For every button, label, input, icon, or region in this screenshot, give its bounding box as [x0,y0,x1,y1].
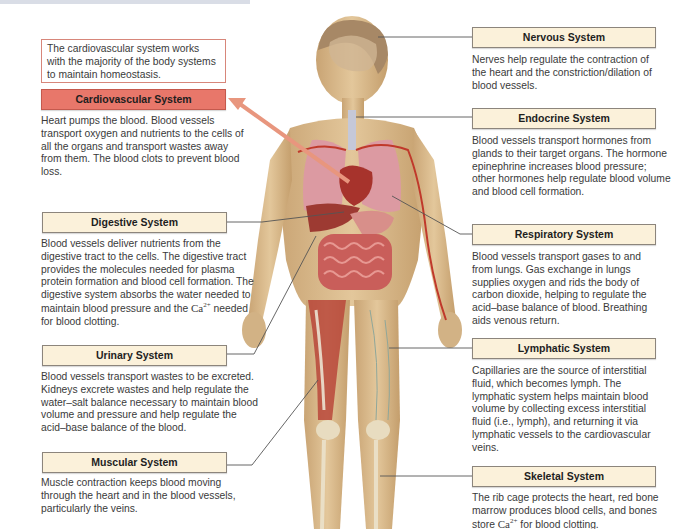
ca-text: Ca [191,302,203,314]
nervous-system-desc: Nerves help regulate the contraction of … [472,54,662,92]
skeletal-desc-tail: for blood clotting. [517,519,598,529]
intro-note: The cardiovascular system works with the… [41,39,226,83]
endocrine-system-label: Endocrine System [472,108,656,129]
ca-text: Ca [498,518,510,529]
respiratory-system-desc: Blood vessels transport gases to and fro… [472,251,662,328]
cardiovascular-system-desc: Heart pumps the blood. Blood vessels tra… [41,115,246,179]
lymphatic-system-label: Lymphatic System [472,338,656,359]
urinary-system-label: Urinary System [42,345,227,366]
nervous-system-label: Nervous System [472,27,656,48]
muscular-system-label: Muscular System [42,452,227,473]
skeletal-system-desc: The rib cage protects the heart, red bon… [472,492,677,529]
calcium-symbol: Ca2+ [191,302,211,314]
skeletal-system-label: Skeletal System [472,466,656,487]
muscular-system-desc: Muscle contraction keeps blood moving th… [41,477,256,515]
cardiovascular-system-label: Cardiovascular System [41,89,226,110]
digestive-system-desc: Blood vessels deliver nutrients from the… [41,238,256,329]
calcium-symbol: Ca2+ [498,518,518,529]
digestive-system-label: Digestive System [42,212,227,233]
ca-charge: 2+ [203,301,210,309]
head [316,16,388,120]
urinary-system-desc: Blood vessels transport wastes to be exc… [41,371,263,435]
lymphatic-system-desc: Capillaries are the source of interstiti… [472,365,662,455]
endocrine-system-desc: Blood vessels transport hormones from gl… [472,135,672,199]
respiratory-system-label: Respiratory System [472,224,656,245]
